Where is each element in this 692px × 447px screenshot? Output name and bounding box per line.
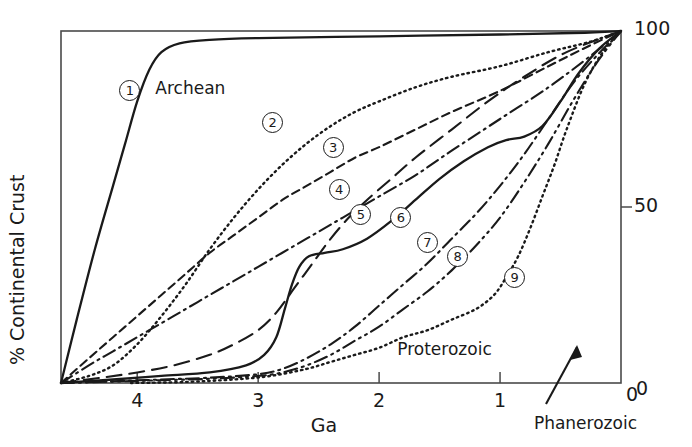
phanerozoic-arrow-head	[570, 345, 582, 360]
crust-growth-figure: % Continental Crust Ga Archean Proterozo…	[0, 0, 692, 447]
era-label-phanerozoic: Phanerozoic	[534, 415, 637, 432]
curve-marker-4: 4	[329, 179, 350, 200]
curve-marker-7: 7	[417, 232, 438, 253]
curve-1	[61, 31, 621, 383]
plot-frame	[61, 31, 621, 383]
curve-marker-8: 8	[447, 246, 468, 267]
curve-marker-9: 9	[504, 267, 525, 288]
x-axis-title: Ga	[311, 416, 337, 435]
curve-group	[61, 31, 621, 383]
curve-7	[61, 31, 621, 383]
curve-8	[61, 31, 621, 383]
phanerozoic-arrow-group	[546, 345, 582, 404]
plot-canvas	[0, 0, 692, 447]
era-label-archean: Archean	[155, 80, 225, 97]
x-tick-label-4: 4	[131, 391, 143, 410]
curve-4	[61, 31, 621, 383]
curve-3	[61, 31, 621, 383]
x-tick-label-1: 1	[494, 391, 506, 410]
x-tick-label-2: 2	[373, 391, 385, 410]
y-tick-label-0: 0	[636, 379, 648, 398]
era-label-proterozoic: Proterozoic	[397, 341, 492, 358]
curve-2	[61, 31, 621, 383]
axis-ticks-group	[137, 207, 632, 383]
x-tick-label-3: 3	[252, 391, 264, 410]
curve-marker-3: 3	[323, 137, 344, 158]
curve-marker-5: 5	[350, 204, 371, 225]
curve-6	[61, 31, 621, 383]
y-tick-label-100: 100	[634, 19, 670, 38]
curve-5	[61, 31, 621, 383]
axis-frame-group	[61, 31, 621, 383]
y-tick-label-50: 50	[634, 196, 658, 215]
y-axis-title: % Continental Crust	[8, 175, 27, 365]
